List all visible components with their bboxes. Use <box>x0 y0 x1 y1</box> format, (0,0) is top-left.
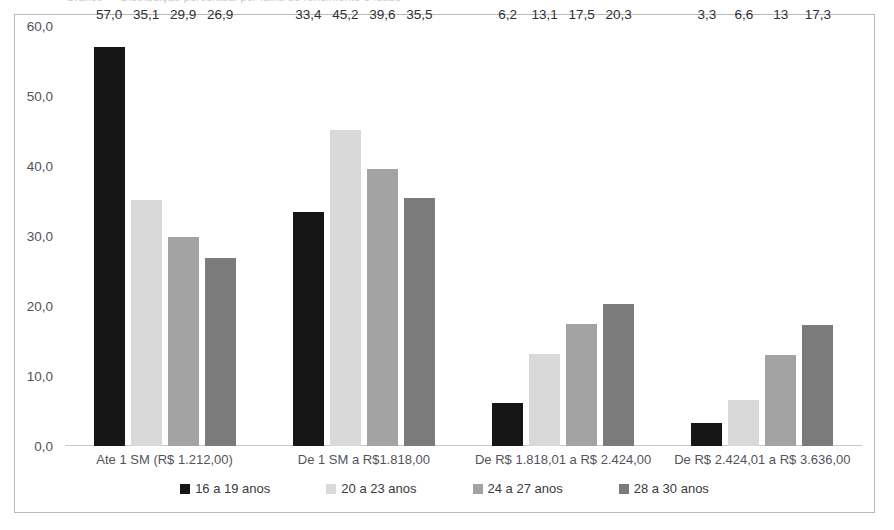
x-axis-category-label: De 1 SM a R$1.818,00 <box>264 452 463 467</box>
bar-column: 13 <box>765 26 796 446</box>
bar[interactable]: 33,4 <box>293 212 324 446</box>
y-axis-tick: 0,0 <box>34 439 53 454</box>
bar-column: 57,0 <box>94 26 125 446</box>
bar[interactable]: 17,5 <box>566 324 597 447</box>
chart-legend: 16 a 19 anos20 a 23 anos24 a 27 anos28 a… <box>15 481 874 496</box>
bar-column: 3,3 <box>691 26 722 446</box>
bar-value-label: 39,6 <box>369 7 395 22</box>
clipped-caption-strip: Gráfico — Distribuição percentual por fa… <box>0 0 894 5</box>
legend-swatch-icon <box>619 484 629 494</box>
bar-column: 6,2 <box>492 26 523 446</box>
bar-column: 35,5 <box>404 26 435 446</box>
plot-area: 57,035,129,926,933,445,239,635,56,213,11… <box>65 26 862 446</box>
bar[interactable]: 35,5 <box>404 198 435 447</box>
bar-group-bars: 33,445,239,635,5 <box>264 26 463 446</box>
bar[interactable]: 17,3 <box>802 325 833 446</box>
legend-item[interactable]: 24 a 27 anos <box>473 481 563 496</box>
bar-value-label: 13,1 <box>531 7 557 22</box>
x-axis-category-label: De R$ 1.818,01 a R$ 2.424,00 <box>464 452 663 467</box>
legend-label: 24 a 27 anos <box>488 481 563 496</box>
bar-column: 45,2 <box>330 26 361 446</box>
caption-text: Gráfico — Distribuição percentual por fa… <box>0 0 894 3</box>
bar-groups: 57,035,129,926,933,445,239,635,56,213,11… <box>65 26 862 446</box>
legend-item[interactable]: 16 a 19 anos <box>180 481 270 496</box>
legend-item[interactable]: 28 a 30 anos <box>619 481 709 496</box>
y-axis-tick: 10,0 <box>27 369 53 384</box>
bar-column: 35,1 <box>131 26 162 446</box>
legend-label: 28 a 30 anos <box>634 481 709 496</box>
bar-value-label: 13 <box>773 7 788 22</box>
bar-column: 33,4 <box>293 26 324 446</box>
bar-value-label: 6,2 <box>498 7 517 22</box>
legend-item[interactable]: 20 a 23 anos <box>326 481 416 496</box>
chart-frame: 60,050,040,030,020,010,00,0 57,035,129,9… <box>14 14 875 513</box>
bar-value-label: 3,3 <box>697 7 716 22</box>
x-axis-category-label: De R$ 2.424,01 a R$ 3.636,00 <box>663 452 862 467</box>
y-axis-tick: 40,0 <box>27 159 53 174</box>
bar-value-label: 26,9 <box>207 7 233 22</box>
legend-label: 16 a 19 anos <box>195 481 270 496</box>
bar-column: 20,3 <box>603 26 634 446</box>
bar-group: 57,035,129,926,9 <box>65 26 264 446</box>
x-axis-category-label: Ate 1 SM (R$ 1.212,00) <box>65 452 264 467</box>
bar-group: 6,213,117,520,3 <box>464 26 663 446</box>
bar[interactable]: 3,3 <box>691 423 722 446</box>
bar-value-label: 17,5 <box>568 7 594 22</box>
bar-column: 26,9 <box>205 26 236 446</box>
bar-column: 13,1 <box>529 26 560 446</box>
bar-group-bars: 6,213,117,520,3 <box>464 26 663 446</box>
bar[interactable]: 13,1 <box>529 354 560 446</box>
x-axis-labels: Ate 1 SM (R$ 1.212,00)De 1 SM a R$1.818,… <box>65 452 862 467</box>
y-axis-tick: 30,0 <box>27 229 53 244</box>
bar-column: 6,6 <box>728 26 759 446</box>
bar-value-label: 45,2 <box>332 7 358 22</box>
y-axis-tick: 20,0 <box>27 299 53 314</box>
bar-value-label: 17,3 <box>805 7 831 22</box>
bar-column: 29,9 <box>168 26 199 446</box>
bar-group: 3,36,61317,3 <box>663 26 862 446</box>
bar[interactable]: 13 <box>765 355 796 446</box>
legend-swatch-icon <box>473 484 483 494</box>
bar-group-bars: 57,035,129,926,9 <box>65 26 264 446</box>
bar[interactable]: 39,6 <box>367 169 398 446</box>
bar[interactable]: 29,9 <box>168 237 199 446</box>
bar-value-label: 6,6 <box>734 7 753 22</box>
bar-column: 17,5 <box>566 26 597 446</box>
bar-column: 39,6 <box>367 26 398 446</box>
legend-swatch-icon <box>180 484 190 494</box>
bar-value-label: 57,0 <box>96 7 122 22</box>
bar-value-label: 29,9 <box>170 7 196 22</box>
bar[interactable]: 26,9 <box>205 258 236 446</box>
bar-group-bars: 3,36,61317,3 <box>663 26 862 446</box>
legend-swatch-icon <box>326 484 336 494</box>
bar-value-label: 20,3 <box>605 7 631 22</box>
bar[interactable]: 45,2 <box>330 130 361 446</box>
bar[interactable]: 6,2 <box>492 403 523 446</box>
bar[interactable]: 57,0 <box>94 47 125 446</box>
y-axis: 60,050,040,030,020,010,00,0 <box>15 26 61 446</box>
bar[interactable]: 35,1 <box>131 200 162 446</box>
bar-value-label: 35,5 <box>406 7 432 22</box>
bar[interactable]: 6,6 <box>728 400 759 446</box>
legend-label: 20 a 23 anos <box>341 481 416 496</box>
y-axis-tick: 50,0 <box>27 89 53 104</box>
bar[interactable]: 20,3 <box>603 304 634 446</box>
y-axis-tick: 60,0 <box>27 19 53 34</box>
bar-group: 33,445,239,635,5 <box>264 26 463 446</box>
bar-value-label: 35,1 <box>133 7 159 22</box>
bar-value-label: 33,4 <box>295 7 321 22</box>
bar-column: 17,3 <box>802 26 833 446</box>
